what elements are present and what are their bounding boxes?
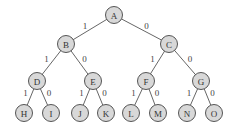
edge-label: 1 bbox=[131, 88, 136, 98]
binary-tree-diagram: 10101010101010ABCDEFGHIJKLMNO bbox=[0, 0, 230, 135]
edge-label: 0 bbox=[47, 88, 52, 98]
edge-label: 1 bbox=[150, 54, 155, 64]
edge-A-C bbox=[114, 15, 169, 44]
tree-node-a: A bbox=[106, 7, 123, 24]
tree-node-c: C bbox=[161, 36, 178, 53]
node-label: D bbox=[34, 77, 41, 87]
node-label: N bbox=[184, 109, 191, 119]
node-label: M bbox=[154, 109, 162, 119]
edge-label: 1 bbox=[83, 21, 88, 31]
node-label: L bbox=[128, 109, 134, 119]
node-label: I bbox=[50, 109, 53, 119]
node-label: F bbox=[143, 77, 148, 87]
tree-node-m: M bbox=[150, 105, 167, 122]
edge-label: 0 bbox=[155, 88, 160, 98]
tree-node-l: L bbox=[123, 105, 140, 122]
edge-label: 0 bbox=[188, 54, 193, 64]
tree-node-k: K bbox=[98, 105, 115, 122]
node-label: C bbox=[166, 40, 172, 50]
tree-node-e: E bbox=[85, 73, 102, 90]
node-label: K bbox=[103, 109, 110, 119]
node-label: A bbox=[111, 11, 118, 21]
edge-label: 0 bbox=[210, 88, 215, 98]
tree-node-i: I bbox=[43, 105, 60, 122]
tree-node-h: H bbox=[16, 105, 33, 122]
edge-label: 0 bbox=[82, 54, 87, 64]
tree-node-o: O bbox=[206, 105, 223, 122]
edge-label: 1 bbox=[44, 54, 49, 64]
node-label: E bbox=[90, 77, 96, 87]
edge-label: 1 bbox=[23, 88, 28, 98]
edge-label: 1 bbox=[187, 88, 192, 98]
tree-node-d: D bbox=[29, 73, 46, 90]
tree-node-f: F bbox=[138, 73, 155, 90]
edge-label: 0 bbox=[102, 88, 107, 98]
node-label: H bbox=[21, 109, 28, 119]
tree-node-b: B bbox=[58, 36, 75, 53]
tree-node-n: N bbox=[179, 105, 196, 122]
tree-canvas: 10101010101010ABCDEFGHIJKLMNO bbox=[0, 0, 230, 135]
edge-label: 0 bbox=[144, 21, 149, 31]
tree-node-j: J bbox=[72, 105, 89, 122]
node-label: O bbox=[211, 109, 218, 119]
node-label: G bbox=[198, 77, 205, 87]
node-label: B bbox=[63, 40, 69, 50]
edge-label: 1 bbox=[79, 88, 84, 98]
node-label: J bbox=[78, 109, 82, 119]
tree-node-g: G bbox=[193, 73, 210, 90]
